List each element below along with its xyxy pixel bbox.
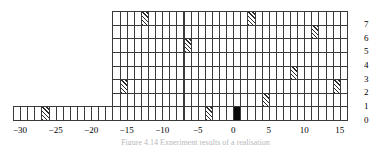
x-axis-tick-label: −30 — [5, 126, 35, 135]
y-axis-tick-label: 3 — [364, 75, 369, 84]
x-axis-tick-label: 0 — [218, 126, 248, 135]
x-axis-tick-label: −25 — [41, 126, 71, 135]
x-axis-tick-label: 15 — [325, 126, 355, 135]
x-axis-tick-label: −10 — [147, 126, 177, 135]
x-axis-tick-label: −15 — [112, 126, 142, 135]
histogram-plot: −30−25−20−15−10−505101501234567 — [0, 0, 391, 145]
histogram-cell — [340, 66, 348, 81]
histogram-cell — [340, 11, 348, 26]
x-axis-tick-label: −5 — [183, 126, 213, 135]
x-axis-tick-label: 5 — [254, 126, 284, 135]
x-axis-tick-label: 10 — [289, 126, 319, 135]
figure-container: −30−25−20−15−10−505101501234567 Figure 4… — [0, 0, 391, 145]
histogram-cell — [340, 106, 348, 121]
y-axis-tick-label: 0 — [364, 116, 369, 125]
x-axis-tick-label: −20 — [76, 126, 106, 135]
y-axis-tick-label: 2 — [364, 88, 369, 97]
histogram-cell — [340, 38, 348, 53]
histogram-cell — [340, 52, 348, 67]
histogram-cell — [340, 79, 348, 94]
figure-caption: Figure 4.14 Experiment results of a real… — [0, 138, 391, 145]
y-axis-tick-label: 7 — [364, 20, 369, 29]
y-axis-tick-label: 5 — [364, 47, 369, 56]
histogram-cell — [340, 93, 348, 108]
histogram-cell — [340, 25, 348, 40]
y-axis-tick-label: 6 — [364, 34, 369, 43]
y-axis-tick-label: 1 — [364, 102, 369, 111]
y-axis-tick-label: 4 — [364, 61, 369, 70]
